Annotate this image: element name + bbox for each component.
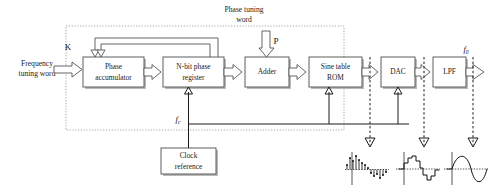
n-bit-phase-register-label-line1: N-bit phase [176,62,211,71]
feedback-arrow-inner-head [97,50,105,57]
clock-reference-label-line1: Clock [180,151,198,160]
lpf-label: LPF [443,67,456,76]
n-bit-phase-register-label-line2: register [182,73,205,82]
phase-tuning-word-label-line2: word [236,15,252,24]
frequency-tuning-word-label-line1: Frequency [21,59,53,68]
frequency-tuning-word-label-line2: tuning word [19,69,56,78]
adder-to-sine-rom-arrow [289,65,306,80]
phase-accumulator-label-line2: accumulator [95,73,132,82]
p-symbol-label: P [273,36,278,46]
clock-reference-label-line2: reference [175,162,203,171]
lpf-output-arrow [466,65,484,80]
sine-table-rom-label-line1: Sine table [321,62,351,71]
probe-arrow-sine-rom-output [365,138,375,147]
staircase-waveform [396,152,440,185]
sampled-impulse-waveform [345,152,389,185]
probe-arrow-dac-output [419,138,429,147]
accumulator-to-register-arrow [144,65,161,80]
dac-label: DAC [390,67,406,76]
dac-to-lpf-arrow [415,65,430,80]
phase-tuning-word-arrow [259,31,274,57]
diagram-canvas: Frequency tuning word K Phase accumulato… [0,0,490,188]
probe-arrow-lpf-output [468,138,478,147]
dds-block-diagram-figure: Frequency tuning word K Phase accumulato… [0,0,490,188]
phase-accumulator-label-line1: Phase [105,62,123,71]
register-to-adder-arrow [224,65,242,80]
k-symbol-label: K [65,42,72,52]
f-clock-symbol-label: fc [176,114,181,125]
adder-label: Adder [258,67,277,76]
f-out-symbol-label: f0 [463,44,468,55]
frequency-tuning-word-arrow [54,62,82,77]
sine-waveform [444,152,488,185]
sine-table-rom-label-line2: ROM [327,73,344,82]
phase-tuning-word-label-line1: Phase tuning [224,5,263,14]
